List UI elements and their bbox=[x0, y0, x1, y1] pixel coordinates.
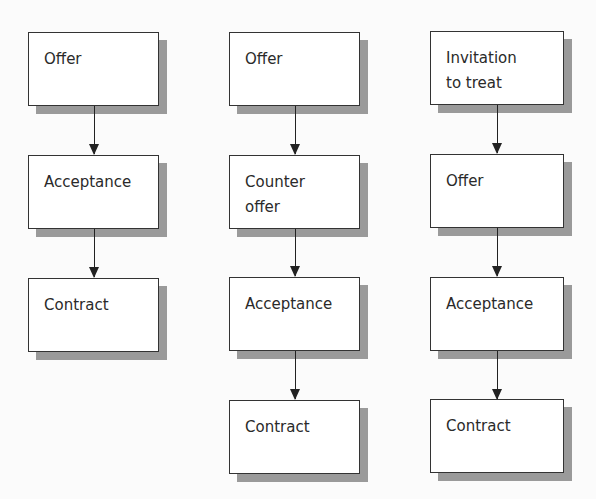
box-offer: Offer bbox=[430, 154, 564, 228]
box-acceptance: Acceptance bbox=[28, 155, 159, 229]
box-label: Offer bbox=[446, 169, 484, 194]
box-acceptance: Acceptance bbox=[229, 277, 360, 351]
box-label: Contract bbox=[245, 415, 310, 440]
box-label: Acceptance bbox=[446, 292, 533, 317]
box-offer: Offer bbox=[229, 32, 360, 106]
arrow-down-icon bbox=[94, 106, 95, 154]
box-contract: Contract bbox=[430, 399, 564, 473]
arrow-down-icon bbox=[497, 228, 498, 276]
box-label: Acceptance bbox=[245, 292, 332, 317]
box-label: Offer bbox=[245, 47, 283, 72]
box-label: Contract bbox=[446, 414, 511, 439]
arrow-down-icon bbox=[497, 351, 498, 399]
box-contract: Contract bbox=[229, 400, 360, 474]
box-invitation-to-treat: Invitation to treat bbox=[430, 31, 564, 105]
box-counter-offer: Counter offer bbox=[229, 155, 360, 229]
box-contract: Contract bbox=[28, 278, 159, 352]
box-label: Offer bbox=[44, 47, 82, 72]
arrow-down-icon bbox=[295, 351, 296, 399]
arrow-down-icon bbox=[94, 229, 95, 277]
arrow-down-icon bbox=[497, 105, 498, 153]
arrow-down-icon bbox=[295, 229, 296, 276]
box-label: Invitation to treat bbox=[446, 46, 517, 96]
box-label: Contract bbox=[44, 293, 109, 318]
box-label: Counter offer bbox=[245, 170, 305, 220]
box-label: Acceptance bbox=[44, 170, 131, 195]
box-offer: Offer bbox=[28, 32, 159, 106]
box-acceptance: Acceptance bbox=[430, 277, 564, 351]
arrow-down-icon bbox=[295, 106, 296, 154]
